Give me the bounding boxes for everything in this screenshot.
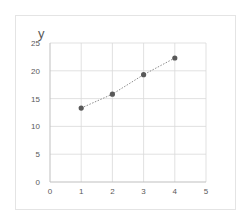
x-tick-label: 0 [48,187,53,196]
x-tick-label: 4 [173,187,178,196]
y-tick-label: 15 [31,95,40,104]
y-tick-label: 5 [36,150,41,159]
trendline [81,58,175,108]
data-series [79,55,178,110]
y-tick-label: 0 [36,178,41,187]
x-tick-label: 5 [204,187,209,196]
gridlines [50,43,206,182]
axes [50,43,206,182]
y-tick-label: 20 [31,67,40,76]
x-axis-ticks: 012345 [48,187,209,196]
y-axis-ticks: 0510152025 [31,39,40,187]
y-axis-label: y [38,26,45,41]
x-tick-label: 2 [110,187,115,196]
data-point [110,92,115,97]
data-point [141,72,146,77]
data-point [172,55,177,60]
y-tick-label: 10 [31,122,40,131]
x-tick-label: 3 [141,187,146,196]
data-point [79,105,84,110]
scatter-chart: 012345 0510152025 y [0,0,246,224]
x-tick-label: 1 [79,187,84,196]
